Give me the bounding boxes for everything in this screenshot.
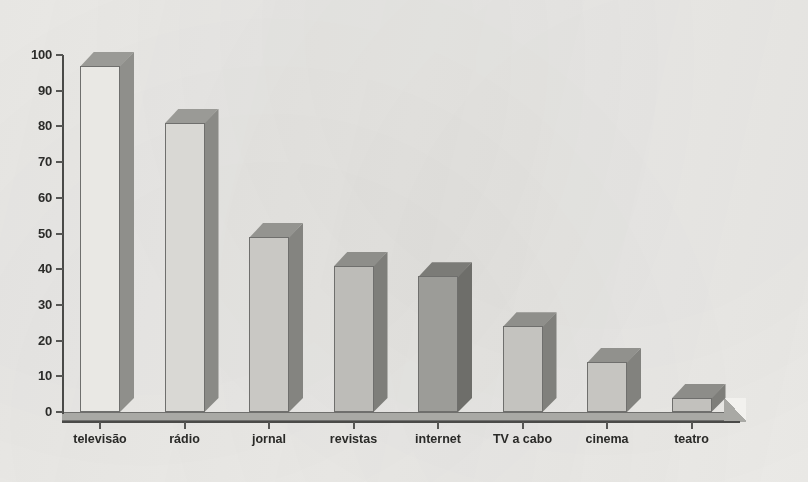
y-tick-label: 60 xyxy=(4,191,52,204)
y-tick-mark xyxy=(56,125,63,127)
y-tick-label: 40 xyxy=(4,262,52,275)
y-tick-mark xyxy=(56,411,63,413)
x-tick-mark xyxy=(99,422,101,429)
bar-front-face xyxy=(672,398,712,412)
y-tick-label: 10 xyxy=(4,369,52,382)
y-tick-mark xyxy=(56,90,63,92)
x-tick-mark xyxy=(606,422,608,429)
x-tick-mark xyxy=(184,422,186,429)
y-tick-mark xyxy=(56,268,63,270)
y-axis xyxy=(62,55,64,414)
y-tick-label: 30 xyxy=(4,298,52,311)
x-tick-mark xyxy=(353,422,355,429)
x-tick-mark xyxy=(268,422,270,429)
y-tick-label: 80 xyxy=(4,119,52,132)
x-category-label: teatro xyxy=(632,433,752,446)
y-tick-mark xyxy=(56,54,63,56)
y-tick-mark xyxy=(56,340,63,342)
y-tick-label: 0 xyxy=(4,405,52,418)
x-tick-mark xyxy=(437,422,439,429)
y-tick-label: 100 xyxy=(4,48,52,61)
y-tick-mark xyxy=(56,375,63,377)
x-tick-mark xyxy=(691,422,693,429)
y-tick-label: 90 xyxy=(4,84,52,97)
y-tick-mark xyxy=(56,161,63,163)
y-tick-mark xyxy=(56,197,63,199)
x-tick-mark xyxy=(522,422,524,429)
x-axis xyxy=(62,421,740,423)
y-tick-label: 50 xyxy=(4,227,52,240)
y-tick-label: 70 xyxy=(4,155,52,168)
y-tick-mark xyxy=(56,233,63,235)
bar-chart-figure: 0102030405060708090100televisãorádiojorn… xyxy=(0,0,808,482)
plot-area: 0102030405060708090100televisãorádiojorn… xyxy=(0,0,808,482)
y-tick-label: 20 xyxy=(4,334,52,347)
bar-teatro xyxy=(0,0,808,482)
y-tick-mark xyxy=(56,304,63,306)
